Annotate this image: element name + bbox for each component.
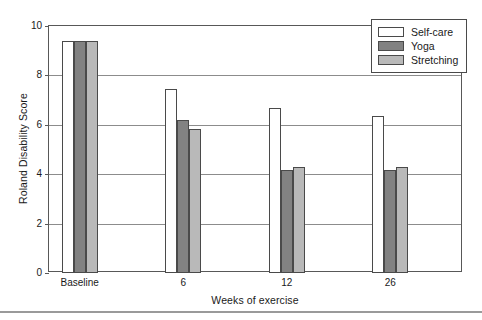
y-tick-mark [45, 125, 49, 126]
legend-swatch-yoga [378, 41, 404, 51]
y-tick-mark [45, 224, 49, 225]
bar-yoga-6 [177, 120, 189, 273]
y-tick-label: 6 [36, 120, 42, 130]
legend: Self-care Yoga Stretching [371, 19, 467, 73]
legend-item-stretching: Stretching [378, 53, 458, 67]
y-tick-mark [45, 26, 49, 27]
legend-swatch-stretching [378, 55, 404, 65]
gridline [49, 75, 461, 76]
y-tick-label: 2 [36, 219, 42, 229]
legend-label-yoga: Yoga [411, 41, 435, 52]
bar-stretching-26 [396, 167, 408, 273]
legend-label-self-care: Self-care [411, 27, 453, 38]
x-tick-label: 6 [180, 278, 186, 288]
legend-label-stretching: Stretching [411, 55, 458, 66]
x-tick-label: 26 [385, 278, 396, 288]
y-tick-mark [45, 273, 49, 274]
bar-stretching-6 [189, 129, 201, 273]
y-tick-label: 0 [36, 268, 42, 278]
y-tick-label: 8 [36, 70, 42, 80]
legend-swatch-self-care [378, 27, 404, 37]
y-tick-label: 4 [36, 169, 42, 179]
bar-self-care-6 [165, 89, 177, 273]
y-axis-title: Roland Disability Score [14, 25, 32, 272]
x-tick-label: Baseline [61, 278, 99, 288]
x-axis-title: Weeks of exercise [48, 294, 462, 306]
bar-self-care-12 [269, 108, 281, 273]
x-tick-label: 12 [281, 278, 292, 288]
bar-yoga-26 [384, 170, 396, 273]
y-tick-label: 10 [31, 21, 42, 31]
plot-area: 0246810 Baseline61226 Self-care Yoga Str… [48, 25, 462, 272]
bar-chart-figure: Roland Disability Score 0246810 Baseline… [0, 0, 482, 320]
footer-divider [0, 311, 482, 313]
bar-self-care-26 [372, 116, 384, 273]
bar-stretching-baseline [86, 41, 98, 273]
legend-item-self-care: Self-care [378, 25, 458, 39]
gridline [49, 125, 461, 126]
bar-yoga-12 [281, 170, 293, 273]
bar-yoga-baseline [74, 41, 86, 273]
bar-self-care-baseline [62, 41, 74, 273]
y-tick-mark [45, 75, 49, 76]
bar-stretching-12 [293, 167, 305, 273]
y-tick-mark [45, 174, 49, 175]
legend-item-yoga: Yoga [378, 39, 458, 53]
